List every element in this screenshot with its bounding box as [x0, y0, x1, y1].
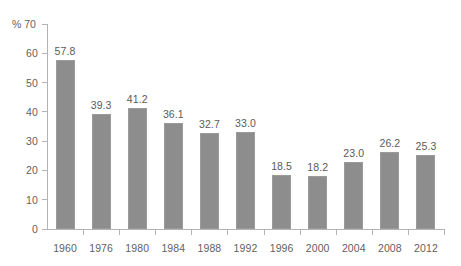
x-axis-tick	[336, 229, 337, 235]
y-axis-tick	[42, 141, 48, 142]
bar	[416, 155, 435, 229]
x-axis-label: 1988	[189, 243, 229, 254]
x-axis-line	[47, 229, 444, 230]
x-axis-label: 2012	[406, 243, 446, 254]
bar-value-label: 26.2	[370, 138, 410, 149]
y-axis-unit-label: % 70	[12, 19, 36, 29]
bar-value-label: 18.5	[262, 161, 302, 172]
bar	[344, 162, 363, 229]
bar-chart: % 70 0102030405060 57.839.341.236.132.73…	[0, 0, 461, 266]
y-axis-tick	[42, 199, 48, 200]
x-axis-label: 1996	[262, 243, 302, 254]
x-axis-label: 2004	[334, 243, 374, 254]
x-axis-tick	[83, 229, 84, 235]
bar-value-label: 18.2	[298, 162, 338, 173]
x-axis-tick	[227, 229, 228, 235]
y-axis-tick-label: 50	[0, 78, 38, 88]
y-axis-tick-label: 20	[0, 165, 38, 175]
bar	[56, 60, 75, 229]
bar-value-label: 33.0	[226, 118, 266, 129]
bar	[92, 114, 111, 229]
x-axis-label: 1992	[226, 243, 266, 254]
bar	[272, 175, 291, 229]
bar-value-label: 57.8	[45, 46, 85, 57]
x-axis-label: 1980	[117, 243, 157, 254]
y-axis-tick	[42, 111, 48, 112]
y-axis-tick	[42, 229, 48, 230]
y-axis-tick-label: 40	[0, 107, 38, 117]
bar	[200, 133, 219, 229]
x-axis-tick	[300, 229, 301, 235]
bar	[164, 123, 183, 229]
x-axis-tick	[155, 229, 156, 235]
bar-value-label: 32.7	[189, 119, 229, 130]
y-axis-tick-label: 0	[0, 224, 38, 234]
y-axis-tick-label: 10	[0, 195, 38, 205]
bar	[236, 132, 255, 229]
y-axis-tick	[42, 82, 48, 83]
y-axis-tick-label: 30	[0, 136, 38, 146]
x-axis-tick	[264, 229, 265, 235]
bar-value-label: 39.3	[81, 100, 121, 111]
x-axis-label: 1976	[81, 243, 121, 254]
x-axis-tick	[408, 229, 409, 235]
bar-value-label: 23.0	[334, 148, 374, 159]
bar-value-label: 36.1	[153, 109, 193, 120]
x-axis-tick	[191, 229, 192, 235]
bar	[308, 176, 327, 229]
y-axis-tick-label: 60	[0, 48, 38, 58]
bar	[128, 108, 147, 229]
bar-value-label: 41.2	[117, 94, 157, 105]
x-axis-tick	[372, 229, 373, 235]
y-axis-tick	[42, 170, 48, 171]
x-axis-label: 1960	[45, 243, 85, 254]
x-axis-tick	[119, 229, 120, 235]
x-axis-label: 2008	[370, 243, 410, 254]
y-axis-tick	[42, 24, 48, 25]
bar	[380, 152, 399, 229]
x-axis-label: 1984	[153, 243, 193, 254]
x-axis-tick	[444, 229, 445, 235]
bar-value-label: 25.3	[406, 141, 446, 152]
x-axis-label: 2000	[298, 243, 338, 254]
